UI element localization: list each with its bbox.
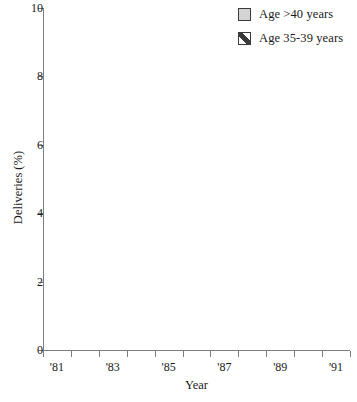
plot-area [0, 0, 357, 402]
x-tick-label-83: '83 [106, 360, 120, 375]
x-tick-mark [322, 351, 323, 357]
x-tick-label-85: '85 [161, 360, 175, 375]
x-tick-mark [294, 351, 295, 357]
x-tick-label-87: '87 [217, 360, 231, 375]
x-tick-mark [127, 351, 128, 357]
y-tick-label: 8 [15, 69, 43, 84]
x-axis-line [43, 350, 350, 351]
x-tick-label-81: '81 [50, 360, 64, 375]
x-tick-mark [350, 351, 351, 357]
x-tick-label-89: '89 [273, 360, 287, 375]
x-tick-mark [99, 351, 100, 357]
x-tick-mark [183, 351, 184, 357]
y-tick-label: 10 [15, 1, 43, 16]
x-axis-title: Year [43, 378, 350, 393]
x-tick-mark [238, 351, 239, 357]
chart-container: Age >40 years Age 35-39 years 0246810 '8… [0, 0, 357, 402]
y-tick-label: 2 [15, 274, 43, 289]
x-tick-mark [266, 351, 267, 357]
x-tick-mark [43, 351, 44, 357]
y-axis-title: Deliveries (%) [11, 118, 26, 258]
x-tick-mark [71, 351, 72, 357]
x-tick-label-91: '91 [329, 360, 343, 375]
x-tick-mark [155, 351, 156, 357]
x-tick-mark [210, 351, 211, 357]
y-axis-line [43, 8, 44, 351]
y-tick-label: 0 [15, 343, 43, 358]
